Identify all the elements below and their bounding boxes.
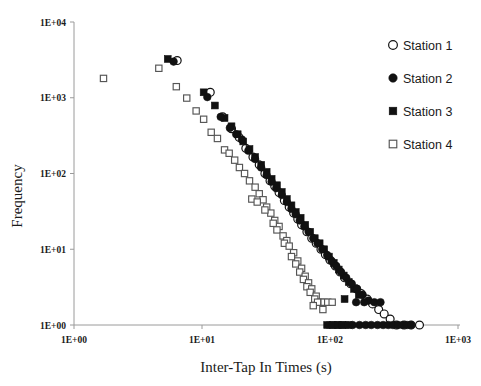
data-point-filled-circle — [407, 321, 415, 329]
data-point-open-square — [310, 303, 316, 309]
data-point-open-square — [156, 65, 162, 71]
data-point-filled-square — [211, 102, 218, 109]
data-point-filled-circle — [217, 113, 225, 121]
x-axis-title: Inter-Tap In Times (s) — [200, 359, 332, 376]
data-point-open-square — [246, 178, 252, 184]
data-point-open-square — [236, 164, 242, 170]
legend-marker-filled-circle — [389, 74, 397, 82]
data-point-filled-circle — [342, 274, 350, 282]
data-point-filled-circle — [278, 191, 286, 199]
legend-label: Station 1 — [403, 39, 452, 53]
data-point-open-square — [329, 299, 335, 305]
scatter-plot: 1E+001E+011E+021E+031E+001E+011E+021E+03… — [0, 0, 481, 386]
data-point-open-square — [214, 135, 220, 141]
data-point-open-square — [173, 84, 179, 90]
data-point-filled-square — [339, 322, 346, 329]
x-tick-label: 1E+00 — [61, 335, 87, 345]
data-point-open-circle — [416, 321, 424, 329]
data-point-open-square — [100, 75, 106, 81]
chart-page: 1E+001E+011E+021E+031E+001E+011E+021E+03… — [0, 0, 481, 386]
data-point-open-square — [226, 150, 232, 156]
y-tick-label: 1E+02 — [40, 169, 66, 179]
x-tick-label: 1E+03 — [445, 335, 471, 345]
data-point-open-square — [241, 170, 247, 176]
data-point-filled-circle — [232, 130, 240, 138]
data-point-open-square — [200, 116, 206, 122]
data-point-filled-circle — [352, 298, 360, 306]
data-point-filled-circle — [359, 291, 367, 299]
legend-label: Station 2 — [403, 72, 452, 86]
data-point-open-square — [184, 95, 190, 101]
x-tick-label: 1E+01 — [189, 335, 215, 345]
data-point-filled-circle — [377, 298, 385, 306]
data-point-filled-circle — [257, 164, 265, 172]
data-point-filled-square — [341, 296, 348, 303]
y-tick-label: 1E+01 — [40, 245, 66, 255]
y-tick-label: 1E+03 — [40, 93, 66, 103]
data-point-open-square — [274, 227, 280, 233]
y-tick-label: 1E+04 — [40, 18, 66, 28]
data-point-filled-circle — [238, 136, 246, 144]
data-point-filled-circle — [272, 184, 280, 192]
data-point-filled-circle — [360, 298, 368, 306]
data-point-filled-circle — [353, 285, 361, 293]
legend-marker-open-square — [389, 140, 397, 148]
data-point-open-square — [268, 210, 274, 216]
data-point-open-square — [270, 220, 276, 226]
data-point-filled-circle — [226, 124, 234, 132]
data-point-open-square — [232, 157, 238, 163]
data-point-open-square — [288, 253, 294, 259]
data-point-open-square — [320, 306, 326, 312]
data-point-open-square — [262, 207, 268, 213]
legend-marker-filled-square — [389, 107, 397, 115]
y-tick-label: 1E+00 — [40, 321, 66, 331]
x-tick-label: 1E+02 — [317, 335, 343, 345]
data-point-filled-circle — [283, 198, 291, 206]
data-point-filled-circle — [203, 93, 211, 101]
data-point-filled-circle — [349, 321, 357, 329]
data-point-open-square — [256, 191, 262, 197]
data-point-open-square — [193, 108, 199, 114]
data-point-open-square — [252, 184, 258, 190]
data-point-filled-circle — [245, 147, 253, 155]
data-point-filled-circle — [268, 178, 276, 186]
data-point-filled-circle — [305, 228, 313, 236]
legend-marker-open-circle — [389, 41, 398, 50]
data-point-open-square — [307, 289, 313, 295]
data-point-open-square — [208, 129, 214, 135]
y-axis-title: Frequency — [9, 164, 25, 228]
data-point-filled-circle — [263, 171, 271, 179]
data-point-filled-circle — [170, 58, 178, 66]
data-point-filled-circle — [251, 155, 259, 163]
data-point-open-square — [286, 243, 292, 249]
legend-label: Station 3 — [403, 105, 452, 119]
data-point-open-square — [254, 199, 260, 205]
legend-label: Station 4 — [403, 138, 452, 152]
